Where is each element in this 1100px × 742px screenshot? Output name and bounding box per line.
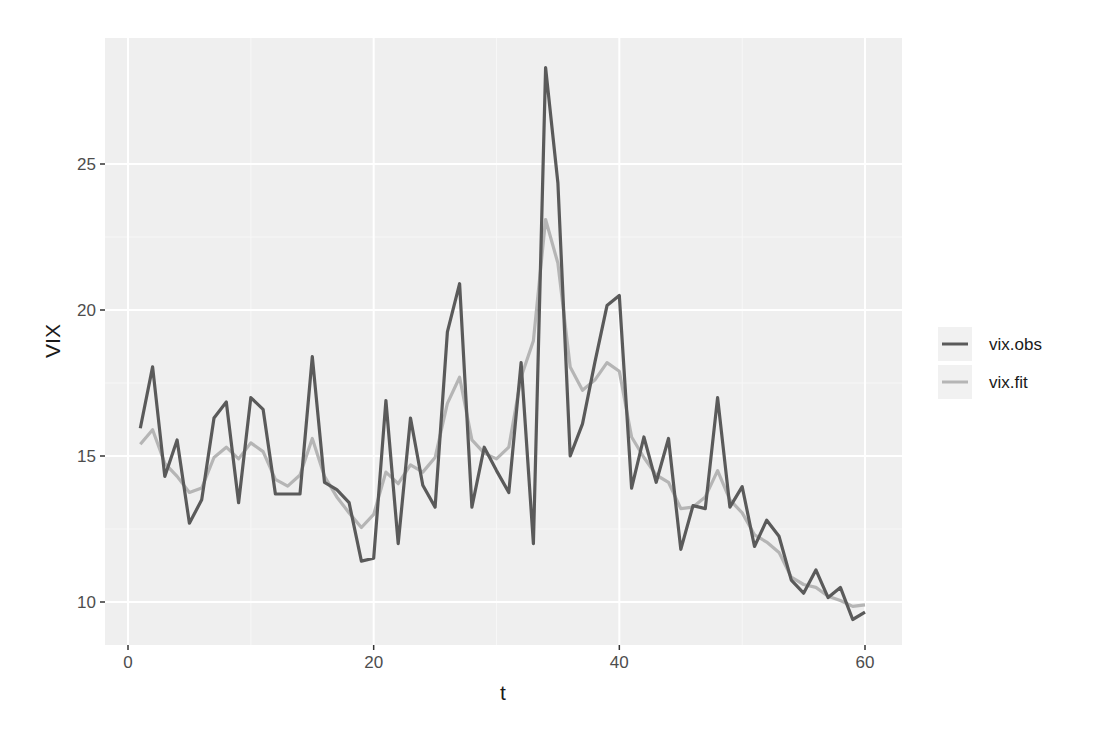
vix-line-chart: 0204060 10152025 t VIX vix.obs vix.fit (0, 0, 1100, 742)
y-tick-label: 15 (77, 447, 96, 466)
legend-item-obs: vix.obs (938, 327, 1042, 361)
y-tick-label: 20 (77, 301, 96, 320)
x-tick-label: 40 (610, 653, 629, 672)
x-axis: 0204060 (123, 645, 874, 672)
x-tick-label: 20 (364, 653, 383, 672)
legend: vix.obs vix.fit (938, 327, 1042, 399)
legend-label-obs: vix.obs (989, 335, 1042, 354)
x-tick-label: 0 (123, 653, 132, 672)
legend-item-fit: vix.fit (938, 365, 1028, 399)
y-axis: 10152025 (77, 155, 105, 612)
x-axis-title: t (500, 681, 506, 704)
legend-label-fit: vix.fit (989, 373, 1028, 392)
x-tick-label: 60 (856, 653, 875, 672)
y-axis-title: VIX (41, 324, 64, 358)
y-tick-label: 25 (77, 155, 96, 174)
y-tick-label: 10 (77, 593, 96, 612)
